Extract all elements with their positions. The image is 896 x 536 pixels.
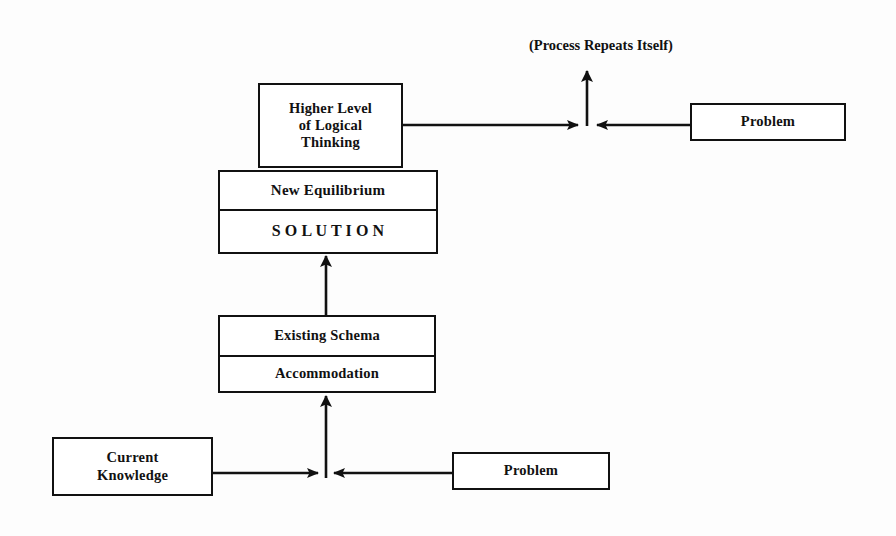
caption-process-repeats: (Process Repeats Itself) [529, 37, 673, 54]
node-higher-level-label: Higher Level of Logical Thinking [260, 85, 401, 166]
node-problem-bottom[interactable]: Problem [452, 452, 610, 490]
diagram-canvas: (Process Repeats Itself) Higher Level of… [0, 0, 896, 536]
node-current-knowledge-label: Current Knowledge [54, 439, 211, 494]
node-current-knowledge[interactable]: Current Knowledge [52, 437, 213, 496]
node-existing-schema-accommodation[interactable]: Existing Schema Accommodation [218, 315, 436, 393]
node-higher-level-of-logical-thinking[interactable]: Higher Level of Logical Thinking [258, 83, 403, 168]
node-problem-bottom-label: Problem [454, 454, 608, 488]
node-problem-top[interactable]: Problem [690, 103, 846, 141]
node-existing-schema-label: Existing Schema [220, 317, 434, 355]
node-new-equilibrium-label: New Equilibrium [220, 172, 436, 209]
node-accommodation-label: Accommodation [220, 355, 434, 391]
node-problem-top-label: Problem [692, 105, 844, 139]
node-new-equilibrium-solution[interactable]: New Equilibrium S O L U T I O N [218, 170, 438, 254]
node-solution-label: S O L U T I O N [220, 209, 436, 252]
